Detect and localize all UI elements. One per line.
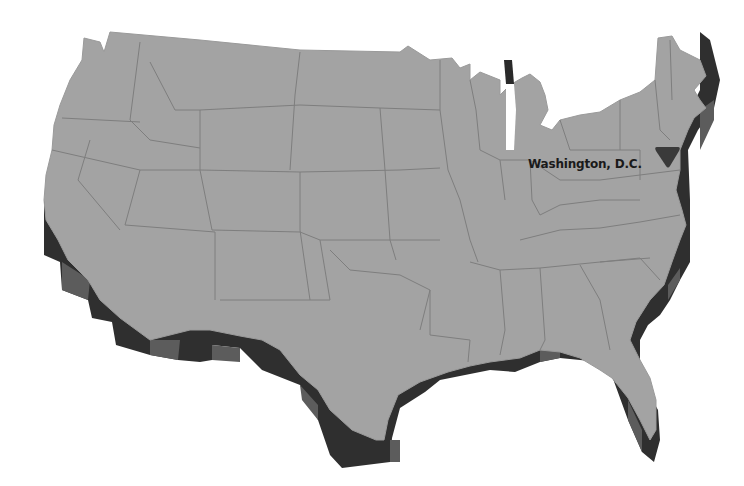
land-top — [44, 32, 706, 440]
washington-dc-label: Washington, D.C. — [528, 157, 642, 171]
lake-michigan-shadow — [504, 60, 514, 84]
us-map — [0, 0, 744, 486]
map-canvas: Washington, D.C. — [0, 0, 744, 486]
